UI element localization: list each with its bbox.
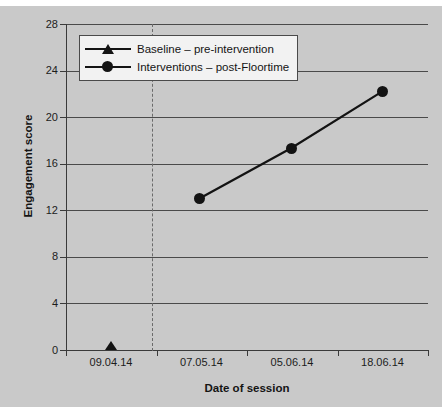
gridline-20 [66,117,428,118]
x-tick-label-3: 18.06.14 [338,356,428,369]
data-point-intervention-0 [194,193,205,204]
x-tick-label-1: 07.05.14 [157,356,247,369]
legend-item-baseline: Baseline – pre-intervention [85,40,289,58]
gridline-4 [66,303,428,304]
gridline-12 [66,210,428,211]
data-point-intervention-2 [377,86,388,97]
legend-label-baseline: Baseline – pre-intervention [137,43,274,56]
y-tick-label-0: 0 [18,345,58,356]
y-tick-mark-20 [60,117,66,118]
y-tick-mark-28 [60,24,66,25]
gridline-28 [66,24,428,25]
y-tick-mark-4 [60,303,66,304]
y-axis-title: Engagement score [22,86,34,246]
y-tick-mark-8 [60,257,66,258]
legend-key-triangle-icon [85,42,131,56]
chart-legend: Baseline – pre-intervention Intervention… [79,35,298,81]
y-tick-mark-16 [60,164,66,165]
y-tick-label-24: 24 [18,65,58,76]
y-tick-mark-12 [60,210,66,211]
y-axis-line [66,24,67,351]
data-point-baseline-0 [105,341,117,350]
page-margin-strip [0,0,442,6]
y-tick-mark-24 [60,71,66,72]
gridline-16 [66,164,428,165]
x-tick-label-2: 05.06.14 [247,356,337,369]
legend-label-interventions: Interventions – post-Floortime [137,61,289,74]
legend-key-circle-icon [85,60,131,74]
x-tick-mark-end [428,350,429,356]
x-axis-title: Date of session [66,382,428,394]
y-tick-label-8: 8 [18,251,58,262]
gridline-8 [66,257,428,258]
legend-item-interventions: Interventions – post-Floortime [85,58,289,76]
x-tick-label-0: 09.04.14 [66,356,156,369]
y-tick-label-4: 4 [18,298,58,309]
data-point-intervention-1 [286,143,297,154]
y-tick-label-28: 28 [18,19,58,30]
chart-figure: 28 24 20 16 12 8 4 0 09.04.14 07.05.14 0… [0,0,442,407]
